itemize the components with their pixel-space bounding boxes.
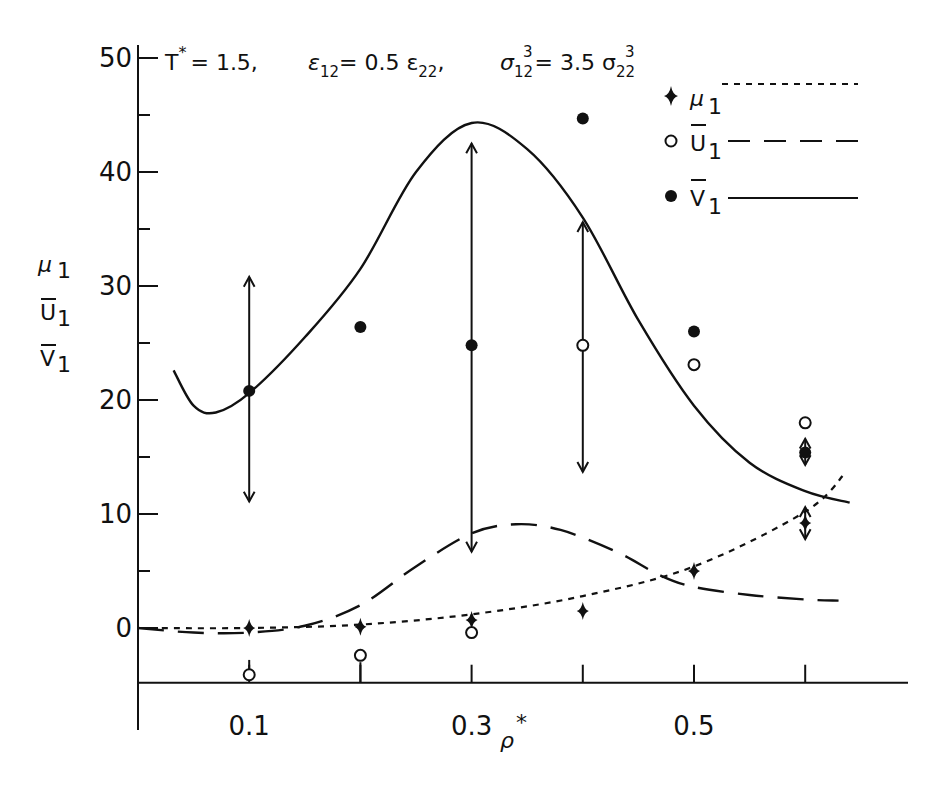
chart-canvas: 010203040500.10.30.5 μ1U1V1 T*= 1.5, ε12… xyxy=(0,0,947,785)
x-axis-label: ρ * xyxy=(500,710,527,753)
svg-text:*: * xyxy=(516,710,527,735)
open-circle-marker xyxy=(689,359,700,370)
legend-label: μ xyxy=(689,86,704,111)
curve-solid xyxy=(174,122,850,502)
y-tick-label: 50 xyxy=(99,43,132,73)
filled-diamond-marker xyxy=(664,86,678,106)
open-circle-marker xyxy=(577,340,588,351)
svg-text:1: 1 xyxy=(57,306,71,331)
legend-sub: 1 xyxy=(708,194,722,219)
y-tick-label: 20 xyxy=(99,385,132,415)
x-tick-label: 0.1 xyxy=(229,711,270,741)
filled-circle-marker xyxy=(665,190,677,202)
filled-diamond-marker xyxy=(354,618,366,636)
annotation-text: T*= 1.5, ε12= 0.5 ε22, σ123= 3.5 σ223 xyxy=(164,43,635,81)
open-circle-marker xyxy=(244,669,255,680)
ylabel-mu: μ xyxy=(37,252,52,277)
y-tick-label: 30 xyxy=(99,271,132,301)
y-axis-label: μ 1 U 1 V 1 xyxy=(37,252,71,377)
filled-circle-marker xyxy=(688,326,700,338)
x-tick-label: 0.3 xyxy=(451,711,492,741)
data-points xyxy=(243,112,811,680)
error-bars xyxy=(244,144,811,683)
filled-circle-marker xyxy=(354,321,366,333)
legend-label: V xyxy=(690,186,705,211)
filled-circle-marker xyxy=(243,385,255,397)
axes: 010203040500.10.30.5 xyxy=(99,43,908,741)
y-tick-label: 40 xyxy=(99,157,132,187)
y-tick-label: 10 xyxy=(99,499,132,529)
open-circle-marker xyxy=(355,650,366,661)
filled-diamond-marker xyxy=(243,619,255,637)
legend-label: U xyxy=(690,131,706,156)
ylabel-u: U xyxy=(40,300,56,325)
filled-circle-marker xyxy=(799,446,811,458)
filled-diamond-marker xyxy=(577,602,589,620)
open-circle-marker xyxy=(466,627,477,638)
legend-sub: 1 xyxy=(708,94,722,119)
curve-dashed xyxy=(138,524,839,633)
svg-text:1: 1 xyxy=(57,352,71,377)
ylabel-v: V xyxy=(40,346,55,371)
svg-text:1: 1 xyxy=(57,258,71,283)
legend-sub: 1 xyxy=(708,139,722,164)
filled-circle-marker xyxy=(466,339,478,351)
open-circle-marker xyxy=(800,417,811,428)
svg-text:ρ: ρ xyxy=(500,728,514,753)
open-circle-marker xyxy=(666,136,677,147)
curve-dotted xyxy=(138,473,845,628)
legend: μ1U1V1 xyxy=(664,84,858,219)
y-tick-label: 0 xyxy=(115,613,132,643)
x-tick-label: 0.5 xyxy=(673,711,714,741)
filled-circle-marker xyxy=(577,112,589,124)
